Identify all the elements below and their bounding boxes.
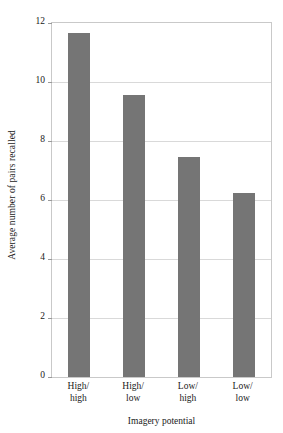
x-axis-tick-label-line2: high — [50, 393, 106, 405]
y-axis-tick-mark — [48, 141, 52, 142]
y-axis-tick-label: 4 — [19, 253, 45, 263]
x-axis-tick-label-line1: High/ — [105, 381, 161, 393]
y-axis-tick-mark — [48, 259, 52, 260]
y-axis-tick-label: 8 — [19, 135, 45, 145]
plot-area — [51, 22, 272, 378]
y-axis-tick-label: 2 — [19, 312, 45, 322]
y-axis-tick-label: 6 — [19, 194, 45, 204]
x-axis-tick-label: High/low — [105, 381, 161, 404]
y-axis-tick-mark — [48, 318, 52, 319]
y-axis-tick-mark — [48, 23, 52, 24]
y-axis-tick-label: 12 — [19, 17, 45, 27]
x-axis-tick-label-line1: Low/ — [215, 381, 271, 393]
y-axis-tick-mark — [48, 82, 52, 83]
bar-chart-figure: Average number of pairs recalled 0246810… — [0, 0, 283, 433]
x-axis-tick-label-line2: low — [105, 393, 161, 405]
x-axis-tick-label-line2: low — [215, 393, 271, 405]
y-axis-tick-mark — [48, 200, 52, 201]
x-axis-tick-label: High/high — [50, 381, 106, 404]
bar — [178, 157, 200, 377]
x-axis-tick-labels: High/highHigh/lowLow/highLow/low — [51, 381, 272, 413]
y-axis-tick-mark — [48, 377, 52, 378]
x-axis-tick-label: Low/low — [215, 381, 271, 404]
bar — [233, 193, 255, 377]
x-axis-title: Imagery potential — [51, 416, 272, 426]
x-axis-tick-label-line1: Low/ — [160, 381, 216, 393]
x-axis-tick-label-line1: High/ — [50, 381, 106, 393]
y-axis-tick-label: 0 — [19, 371, 45, 381]
x-axis-tick-label-line2: high — [160, 393, 216, 405]
x-axis-tick-label: Low/high — [160, 381, 216, 404]
bar — [123, 95, 145, 377]
bar — [68, 33, 90, 377]
y-axis-tick-label: 10 — [19, 76, 45, 86]
y-axis-title-text: Average number of pairs recalled — [7, 130, 17, 260]
